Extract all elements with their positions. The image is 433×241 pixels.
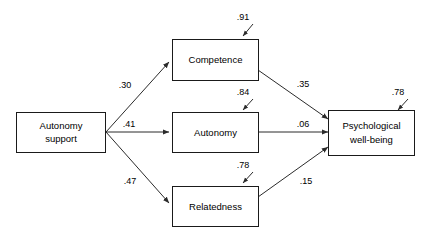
coefficient-support-to-competence: .30 [119,80,132,90]
node-label-competence: Competence [189,54,243,65]
node-label-autonomy-support-line2: support [45,133,77,144]
residual-label-competence: .91 [237,12,250,22]
residual-arrow-competence [243,24,253,36]
node-label-autonomy: Autonomy [194,127,237,138]
coefficient-competence-to-wellbeing: .35 [297,79,310,89]
path-diagram-canvas: Autonomy support Competence Autonomy Rel… [0,0,433,241]
residual-arrow-autonomy [243,99,253,110]
coefficient-support-to-relatedness: .47 [124,176,137,186]
path-line-support-to-relatedness [106,132,169,203]
path-line-support-to-competence [106,62,169,132]
node-label-relatedness: Relatedness [189,201,242,212]
residual-label-relatedness: .78 [237,160,250,170]
residual-arrow-wellbeing [398,99,408,110]
residual-label-autonomy: .84 [237,87,250,97]
node-psychological-well-being: Psychological well-being [329,111,415,156]
path-line-competence-to-wellbeing [258,70,328,119]
residual-arrow-relatedness [243,172,253,183]
coefficient-relatedness-to-wellbeing: .15 [300,176,313,186]
node-autonomy-support: Autonomy support [17,113,106,153]
residual-label-wellbeing: .78 [392,87,405,97]
node-label-autonomy-support-line1: Autonomy [40,120,83,131]
node-competence: Competence [173,40,259,81]
path-line-relatedness-to-wellbeing [258,147,328,197]
coefficient-autonomy-to-wellbeing: .06 [297,119,310,129]
path-diagram: Autonomy support Competence Autonomy Rel… [0,0,433,241]
node-relatedness: Relatedness [173,187,259,227]
node-label-wellbeing-line1: Psychological [342,120,400,131]
coefficient-support-to-autonomy: .41 [123,119,136,129]
node-label-wellbeing-line2: well-being [349,134,393,145]
node-autonomy: Autonomy [173,113,259,153]
